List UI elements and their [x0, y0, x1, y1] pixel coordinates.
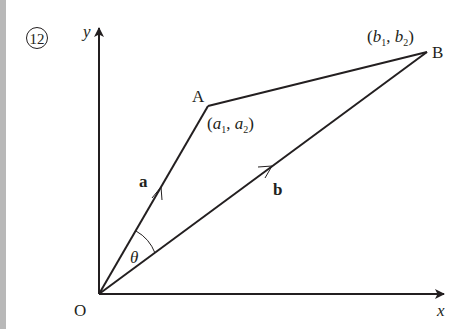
point-b-coordinates: (b1, b2)	[367, 27, 414, 48]
angle-theta-label: θ	[130, 248, 138, 267]
angle-theta-arc	[136, 231, 155, 253]
segment-ab-line	[208, 52, 427, 106]
vector-a-line	[99, 106, 208, 294]
figure-number: 12	[30, 31, 45, 47]
vector-b-line	[99, 52, 427, 294]
vector-b-label: b	[273, 180, 282, 199]
point-a-label: A	[192, 87, 205, 106]
x-axis-label: x	[436, 301, 445, 320]
origin-label: O	[74, 301, 86, 320]
vector-diagram: 12 y x O θ a b A (a1, a2) B (b1, b2)	[0, 0, 469, 329]
vector-a-label: a	[139, 172, 148, 191]
figure-number-badge: 12	[27, 28, 48, 49]
point-a-coordinates: (a1, a2)	[207, 114, 254, 135]
point-b-label: B	[432, 43, 443, 62]
y-axis-label: y	[81, 22, 91, 41]
